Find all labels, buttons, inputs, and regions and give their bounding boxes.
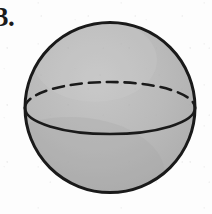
sphere-figure: 3. — [0, 0, 212, 214]
sphere-illustration — [0, 0, 212, 214]
problem-number-label: 3. — [0, 4, 14, 31]
